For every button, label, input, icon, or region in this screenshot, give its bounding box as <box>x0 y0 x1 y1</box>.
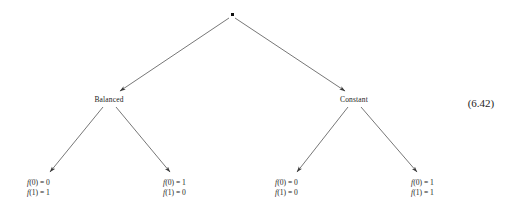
edge-balanced-to-leaf2 <box>116 107 170 172</box>
leaf-line-2: f(1) = 0 <box>275 188 298 198</box>
leaf-line-1-rest: (0) = 1 <box>165 178 186 187</box>
leaf-line-1: f(0) = 1 <box>163 178 186 188</box>
leaf-line-1: f(0) = 0 <box>27 178 50 188</box>
tree-edges-layer <box>0 0 515 210</box>
leaf-line-2-rest: (1) = 0 <box>277 188 298 197</box>
edge-constant-to-leaf4 <box>361 107 417 172</box>
leaf-line-1-rest: (0) = 0 <box>277 178 298 187</box>
leaf-line-2: f(1) = 1 <box>27 188 50 198</box>
leaf-line-2: f(1) = 0 <box>163 188 186 198</box>
leaf-line-1-rest: (0) = 1 <box>413 178 434 187</box>
leaf-line-2-rest: (1) = 1 <box>29 188 50 197</box>
leaf-node-balanced-left: f(0) = 0 f(1) = 1 <box>27 178 50 197</box>
equation-number: (6.42) <box>468 97 495 109</box>
leaf-line-1: f(0) = 0 <box>275 178 298 188</box>
edge-root-to-constant <box>235 18 345 91</box>
edge-balanced-to-leaf1 <box>50 107 103 172</box>
leaf-line-1: f(0) = 1 <box>411 178 434 188</box>
tree-node-constant: Constant <box>340 95 368 104</box>
leaf-line-2-rest: (1) = 1 <box>413 188 434 197</box>
edge-root-to-balanced <box>120 18 229 91</box>
leaf-node-constant-left: f(0) = 0 f(1) = 0 <box>275 178 298 197</box>
tree-node-balanced: Balanced <box>94 95 123 104</box>
edge-constant-to-leaf3 <box>297 107 348 172</box>
root-node-dot <box>231 13 234 16</box>
leaf-node-balanced-right: f(0) = 1 f(1) = 0 <box>163 178 186 197</box>
figure-canvas: Balanced Constant f(0) = 0 f(1) = 1 f(0)… <box>0 0 515 210</box>
leaf-line-1-rest: (0) = 0 <box>29 178 50 187</box>
leaf-node-constant-right: f(0) = 1 f(1) = 1 <box>411 178 434 197</box>
leaf-line-2-rest: (1) = 0 <box>165 188 186 197</box>
leaf-line-2: f(1) = 1 <box>411 188 434 198</box>
